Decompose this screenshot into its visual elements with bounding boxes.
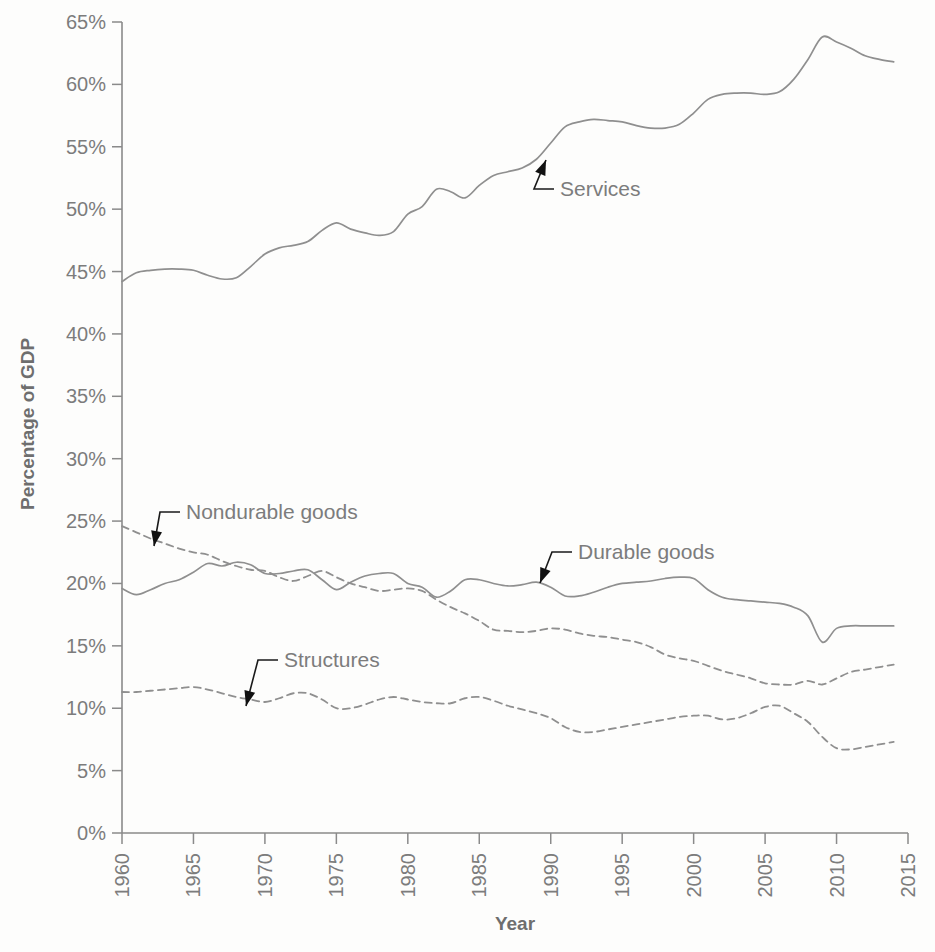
x-tick-label: 1995 [611,853,633,898]
y-tick-label: 40% [66,323,106,345]
annotation-leader-structures [246,660,278,706]
x-tick-label: 1980 [397,853,419,898]
y-tick-label: 30% [66,448,106,470]
x-tick-label: 1970 [254,853,276,898]
x-tick-label: 1965 [182,853,204,898]
y-axis-ticks: 0%5%10%15%20%25%30%35%40%45%50%55%60%65% [66,11,122,844]
x-tick-label: 1975 [325,853,347,898]
annotation-label-services: Services [560,177,641,200]
annotation-label-durable-goods: Durable goods [578,540,715,563]
x-tick-label: 2010 [826,853,848,898]
y-tick-label: 55% [66,136,106,158]
x-axis-title: Year [495,913,536,934]
y-tick-label: 65% [66,11,106,33]
annotation-arrowhead-nondurable-goods [151,530,162,546]
annotation-arrowhead-services [535,160,546,176]
y-tick-label: 0% [77,822,106,844]
x-axis-ticks: 1960196519701975198019851990199520002005… [111,833,919,898]
series-line-nondurable-goods [122,526,894,685]
y-axis-title: Percentage of GDP [17,338,38,510]
x-tick-label: 2005 [754,853,776,898]
y-tick-label: 60% [66,73,106,95]
y-tick-label: 35% [66,385,106,407]
x-tick-label: 1960 [111,853,133,898]
annotation-label-structures: Structures [284,648,380,671]
chart-page: 0%5%10%15%20%25%30%35%40%45%50%55%60%65%… [0,0,935,952]
x-tick-label: 2000 [683,853,705,898]
series-line-structures [122,687,894,750]
annotation-arrowhead-durable-goods [540,567,551,583]
y-tick-label: 25% [66,510,106,532]
annotation-arrowhead-structures [244,690,255,706]
series-lines [122,36,894,749]
x-tick-label: 2015 [897,853,919,898]
y-tick-label: 50% [66,198,106,220]
series-line-services [122,36,894,281]
y-tick-label: 15% [66,635,106,657]
x-tick-label: 1990 [540,853,562,898]
series-annotations: ServicesNondurable goodsDurable goodsStr… [151,160,714,706]
y-tick-label: 45% [66,261,106,283]
annotation-label-nondurable-goods: Nondurable goods [186,500,358,523]
y-tick-label: 10% [66,697,106,719]
y-tick-label: 5% [77,760,106,782]
annotation-leader-durable-goods [540,552,572,583]
gdp-composition-line-chart: 0%5%10%15%20%25%30%35%40%45%50%55%60%65%… [0,0,935,952]
x-tick-label: 1985 [468,853,490,898]
y-tick-label: 20% [66,572,106,594]
